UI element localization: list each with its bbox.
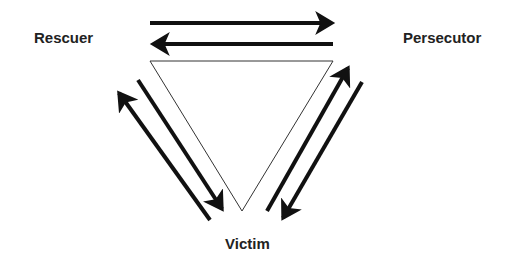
node-label-rescuer: Rescuer: [34, 30, 93, 45]
node-label-persecutor: Persecutor: [403, 30, 481, 45]
arrow-rescuer-to-victim: [138, 80, 222, 209]
center-triangle: [150, 61, 333, 211]
arrow-persecutor-to-victim: [283, 82, 362, 218]
arrow-victim-to-rescuer: [119, 93, 210, 220]
arrow-victim-to-persecutor: [267, 68, 348, 211]
node-label-victim: Victim: [225, 236, 270, 251]
